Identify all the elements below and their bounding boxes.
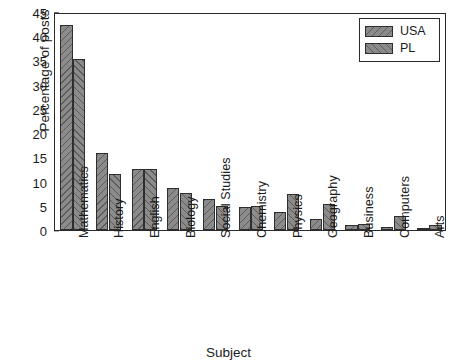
- x-tick-label: Arts: [433, 215, 447, 238]
- bar-usa-computers: [381, 227, 393, 230]
- legend-swatch-pl: [365, 43, 393, 54]
- x-tick-label: English: [148, 196, 162, 238]
- x-tick-label: Mathematics: [77, 166, 91, 238]
- x-tick-label: Computers: [398, 176, 412, 238]
- x-tick-label: Physics: [291, 194, 305, 238]
- legend-item-usa: USA: [365, 23, 434, 40]
- legend-swatch-usa: [365, 26, 393, 37]
- legend-label-usa: USA: [400, 25, 426, 38]
- bar-usa-mathematics: [60, 25, 72, 230]
- x-tick-label: Chemistry: [255, 181, 269, 238]
- bar-usa-physics: [274, 212, 286, 230]
- bar-usa-social-studies: [203, 199, 215, 230]
- bar-usa-biology: [167, 188, 179, 230]
- y-tick-label: 15: [0, 151, 54, 166]
- legend: USA PL: [359, 18, 440, 62]
- x-axis-title: Subject: [0, 345, 457, 360]
- bar-usa-english: [132, 169, 144, 230]
- x-tick-label: History: [112, 198, 126, 238]
- y-tick-label: 40: [0, 30, 54, 45]
- bar-usa-geography: [310, 219, 322, 230]
- x-tick-label: Business: [362, 186, 376, 238]
- bar-usa-chemistry: [239, 207, 251, 230]
- y-tick-label: 35: [0, 54, 54, 69]
- x-tick-label: Social Studies: [219, 157, 233, 238]
- y-tick-label: 10: [0, 175, 54, 190]
- legend-label-pl: PL: [400, 42, 415, 55]
- bar-usa-arts: [417, 228, 429, 230]
- bar-usa-history: [96, 153, 108, 230]
- y-tick-label: 0: [0, 224, 54, 239]
- y-tick-label: 30: [0, 78, 54, 93]
- x-tick-label: Geography: [326, 175, 340, 238]
- legend-item-pl: PL: [365, 40, 434, 57]
- bar-chart: Percentage of posts 051015202530354045 M…: [0, 0, 457, 361]
- bar-usa-business: [345, 225, 357, 230]
- y-tick-label: 25: [0, 102, 54, 117]
- y-tick-label: 5: [0, 199, 54, 214]
- y-tick-label: 20: [0, 127, 54, 142]
- y-tick-label: 45: [0, 6, 54, 21]
- x-tick-label: Biology: [184, 196, 198, 238]
